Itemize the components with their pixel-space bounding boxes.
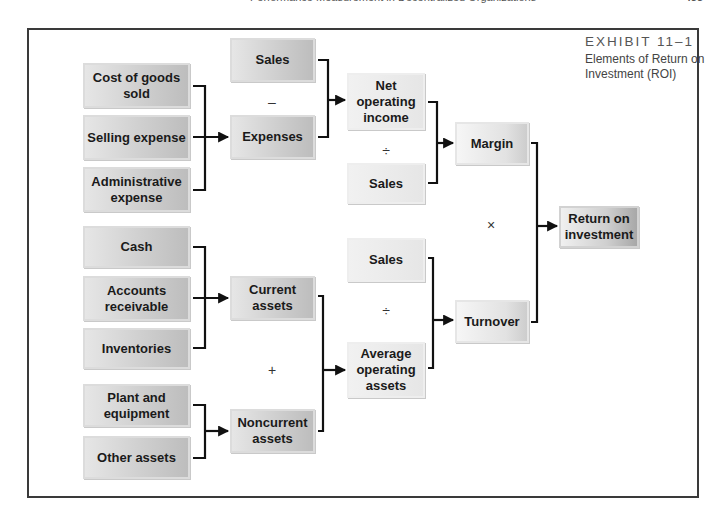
node-other-assets: Other assets [83, 436, 190, 479]
node-inventories: Inventories [83, 328, 190, 369]
node-plant-and-equipment: Plant and equipment [83, 384, 190, 427]
node-cash: Cash [83, 226, 190, 268]
node-administrative-expense: Administrative expense [83, 167, 190, 212]
node-margin: Margin [455, 122, 529, 165]
node-accounts-receivable: Accounts receivable [83, 276, 190, 321]
divide-operator-margin: ÷ [376, 143, 396, 159]
plus-operator: + [262, 362, 282, 378]
node-noncurrent-assets: Noncurrent assets [230, 409, 315, 453]
node-sales-margin: Sales [347, 163, 425, 204]
node-turnover: Turnover [455, 300, 529, 343]
node-current-assets: Current assets [230, 276, 315, 320]
divide-operator-turnover: ÷ [376, 303, 396, 319]
node-average-operating-assets: Average operating assets [347, 342, 425, 398]
node-sales-turnover: Sales [347, 238, 425, 282]
node-selling-expense: Selling expense [83, 115, 190, 160]
node-cost-of-goods-sold: Cost of goods sold [83, 63, 190, 108]
node-sales-top: Sales [230, 38, 315, 82]
node-return-on-investment: Return on investment [559, 206, 639, 248]
minus-operator: – [262, 94, 282, 110]
node-expenses: Expenses [230, 115, 315, 159]
node-net-operating-income: Net operating income [347, 73, 425, 130]
multiply-operator: × [481, 217, 501, 233]
